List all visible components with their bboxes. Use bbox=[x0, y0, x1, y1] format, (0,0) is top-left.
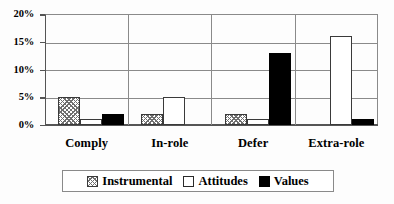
bar-defer-values bbox=[269, 53, 291, 125]
x-tick-label-comply: Comply bbox=[45, 136, 128, 151]
bar-group-in-role bbox=[129, 14, 213, 125]
x-tick-label-extra-role: Extra-role bbox=[295, 136, 378, 151]
bar-extra-role-attitudes bbox=[330, 36, 352, 125]
y-tick-label-0: 0% bbox=[2, 120, 34, 131]
bar-groups bbox=[45, 14, 378, 125]
legend-item-instrumental: Instrumental bbox=[87, 174, 172, 189]
legend-swatch-attitudes-icon bbox=[183, 176, 194, 187]
chart-legend: Instrumental Attitudes Values bbox=[62, 170, 334, 192]
bar-defer-attitudes bbox=[247, 119, 269, 125]
bar-defer-instrumental bbox=[225, 114, 247, 125]
y-tick-label-20: 20% bbox=[2, 9, 34, 20]
bar-extra-role-values bbox=[352, 119, 374, 125]
bar-comply-instrumental bbox=[58, 97, 80, 125]
bar-in-role-attitudes bbox=[163, 97, 185, 125]
x-tick-label-in-role: In-role bbox=[128, 136, 211, 151]
legend-label-attitudes: Attitudes bbox=[198, 174, 247, 189]
x-axis-labels: Comply In-role Defer Extra-role bbox=[45, 136, 378, 151]
y-tick-label-10: 10% bbox=[2, 64, 34, 75]
bar-comply-attitudes bbox=[80, 119, 102, 125]
bar-group-comply bbox=[45, 14, 129, 125]
legend-label-values: Values bbox=[274, 174, 309, 189]
bar-comply-values bbox=[102, 114, 124, 125]
bar-chart: 20% 15% 10% 5% 0% bbox=[0, 0, 394, 204]
legend-item-attitudes: Attitudes bbox=[183, 174, 247, 189]
y-tick-label-5: 5% bbox=[2, 92, 34, 103]
legend-swatch-values-icon bbox=[259, 176, 270, 187]
x-tick-label-defer: Defer bbox=[212, 136, 295, 151]
bar-in-role-instrumental bbox=[141, 114, 163, 125]
legend-label-instrumental: Instrumental bbox=[102, 174, 172, 189]
bar-group-extra-role bbox=[296, 14, 379, 125]
y-axis-labels: 20% 15% 10% 5% 0% bbox=[2, 0, 34, 204]
y-tick-label-15: 15% bbox=[2, 37, 34, 48]
legend-item-values: Values bbox=[259, 174, 309, 189]
bar-group-defer bbox=[212, 14, 296, 125]
legend-swatch-instrumental-icon bbox=[87, 176, 98, 187]
